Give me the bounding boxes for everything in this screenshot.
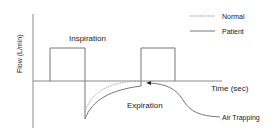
flow-time-diagram: Normal Patient Inspiration Expiration Ti… <box>0 0 274 138</box>
legend-normal-label: Normal <box>222 13 245 20</box>
air-trapping-arrow-line <box>150 83 220 117</box>
y-axis-label: Flow (L/min) <box>16 34 24 73</box>
legend-patient-label: Patient <box>222 28 244 35</box>
expiration-label: Expiration <box>127 101 163 110</box>
inspiration-pulse-2 <box>141 48 175 81</box>
air-trapping-label: Air Trapping <box>222 114 260 122</box>
x-axis-label: Time (sec) <box>211 84 249 93</box>
inspiration-label: Inspiration <box>69 34 106 43</box>
arrowhead-icon <box>146 81 151 85</box>
inspiration-pulse-1 <box>50 48 85 81</box>
